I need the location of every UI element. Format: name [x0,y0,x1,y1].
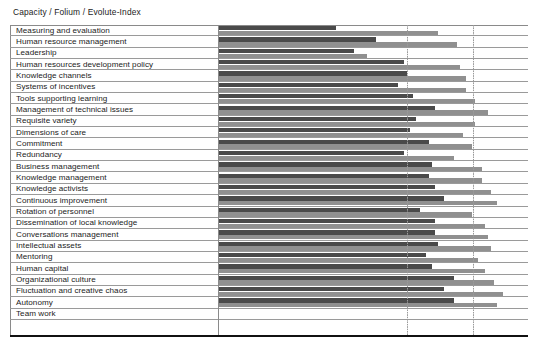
bar-row: Team work [10,309,528,320]
bar-capacity [218,298,454,302]
row-bars [218,116,528,126]
row-label: Commitment [16,139,62,149]
row-label: Business management [16,162,99,172]
bar-folium [218,99,475,103]
chart-title: Capacity / Folium / Evolute-Index [13,7,141,17]
row-bars [218,93,528,103]
bar-capacity [218,26,336,30]
bar-capacity [218,49,354,53]
row-bars [218,138,528,148]
row-label: Tools supporting learning [16,94,107,104]
row-bars [218,207,528,217]
bar-capacity [218,276,454,280]
bar-row: Human resources development policy [10,59,528,70]
bar-row: Autonomy [10,297,528,308]
row-label: Leadership [16,48,57,58]
row-bars [218,104,528,114]
bar-capacity [218,83,398,87]
row-label: Dimensions of care [16,128,86,138]
row-label: Human resources development policy [16,60,153,70]
bar-capacity [218,71,407,75]
bar-folium [218,178,482,182]
row-bars [218,59,528,69]
row-label: Knowledge channels [16,71,92,81]
bar-row: Requisite variety [10,116,528,127]
bar-capacity [218,60,404,64]
bar-row: Conversations management [10,229,528,240]
bar-folium [218,201,497,205]
bar-folium [218,190,491,194]
bar-folium [218,42,457,46]
row-bars [218,127,528,137]
bar-row: Knowledge channels [10,70,528,81]
row-label: Knowledge management [16,173,107,183]
row-label: Fluctuation and creative chaos [16,286,127,296]
row-label: Rotation of personnel [16,207,94,217]
row-label: Requisite variety [16,116,77,126]
row-bars [218,36,528,46]
bar-rows-container: Measuring and evaluationHuman resource m… [10,25,528,320]
row-bars [218,150,528,160]
bar-capacity [218,196,444,200]
bar-row: Human resource management [10,36,528,47]
row-bars [218,195,528,205]
row-bars [218,229,528,239]
bar-capacity [218,253,426,257]
row-bars [218,297,528,307]
bar-row: Commitment [10,138,528,149]
bar-row: Knowledge management [10,172,528,183]
row-label: Human resource management [16,37,127,47]
bar-capacity [218,94,413,98]
bar-folium [218,167,482,171]
bar-capacity [218,117,416,121]
bar-capacity [218,106,435,110]
bar-folium [218,65,460,69]
bar-folium [218,280,494,284]
row-label: Continuous improvement [16,196,107,206]
bar-folium [218,31,438,35]
bar-capacity [218,174,429,178]
bar-folium [218,246,491,250]
row-label: Team work [16,309,56,319]
bar-row: Business management [10,161,528,172]
bar-folium [218,76,466,80]
category-axis-line [218,25,219,337]
row-bars [218,286,528,296]
row-bars [218,25,528,35]
row-label: Conversations management [16,230,118,240]
bar-row: Rotation of personnel [10,207,528,218]
row-bars [218,70,528,80]
row-bars [218,275,528,285]
bar-capacity [218,128,410,132]
bar-row: Tools supporting learning [10,93,528,104]
bar-folium [218,303,497,307]
row-label: Systems of incentives [16,82,95,92]
bar-folium [218,110,488,114]
row-bars [218,218,528,228]
bar-folium [218,224,485,228]
bar-capacity [218,264,432,268]
bar-row: Systems of incentives [10,82,528,93]
row-bars [218,184,528,194]
bar-capacity [218,185,435,189]
bar-folium [218,156,454,160]
bar-capacity [218,242,438,246]
row-bars [218,252,528,262]
bar-folium [218,292,503,296]
bar-capacity [218,140,429,144]
bar-row: Intellectual assets [10,241,528,252]
bar-capacity [218,162,432,166]
bar-folium [218,235,488,239]
row-bars [218,263,528,273]
bar-row: Leadership [10,48,528,59]
row-bars [218,172,528,182]
bar-capacity [218,37,376,41]
bar-row: Knowledge activists [10,184,528,195]
bar-folium [218,212,472,216]
bar-folium [218,269,485,273]
row-bars [218,48,528,58]
row-label: Organizational culture [16,275,96,285]
row-bars [218,241,528,251]
row-label: Mentoring [16,252,52,262]
row-label: Intellectual assets [16,241,81,251]
